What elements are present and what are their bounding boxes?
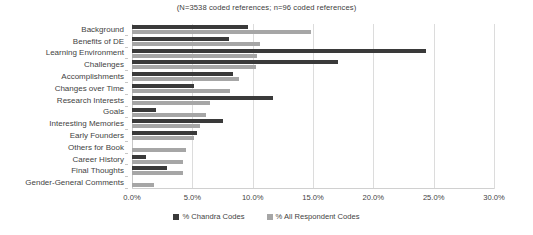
bar-chandra xyxy=(132,131,197,135)
bar-group xyxy=(132,71,494,83)
legend-swatch-icon xyxy=(267,214,273,220)
bar-all-respondent xyxy=(132,101,210,105)
bar-all-respondent xyxy=(132,124,200,128)
bar-group xyxy=(132,48,494,60)
bar-all-respondent xyxy=(132,183,154,187)
legend-swatch-icon xyxy=(173,214,179,220)
x-axis-tick-label: 25.0% xyxy=(423,193,445,202)
bar-all-respondent xyxy=(132,113,206,117)
bar-all-respondent xyxy=(132,42,260,46)
y-axis-category-labels: BackgroundBenefits of DELearning Environ… xyxy=(0,24,128,189)
legend-label: % All Respondent Codes xyxy=(276,212,360,221)
y-axis-tick xyxy=(125,94,128,95)
y-axis-label: Background xyxy=(81,25,124,34)
y-axis-tick xyxy=(125,70,128,71)
y-axis-tick xyxy=(125,117,128,118)
chart-legend: % Chandra Codes% All Respondent Codes xyxy=(0,212,533,221)
bar-all-respondent xyxy=(132,65,256,69)
bar-chandra xyxy=(132,108,156,112)
y-axis-label: Changes over Time xyxy=(55,84,124,93)
bar-group xyxy=(132,95,494,107)
bar-chandra xyxy=(132,25,248,29)
x-axis-tick-label: 10.0% xyxy=(242,193,264,202)
y-axis-label: Gender-General Comments xyxy=(25,178,124,187)
bar-group xyxy=(132,165,494,177)
y-axis-tick xyxy=(125,35,128,36)
y-axis-label: Research Interests xyxy=(57,96,124,105)
y-axis-label: Final Thoughts xyxy=(71,166,124,175)
plot-area xyxy=(132,24,494,189)
bar-all-respondent xyxy=(132,30,311,34)
y-axis-tick xyxy=(125,106,128,107)
bar-all-respondent xyxy=(132,160,183,164)
y-axis-label: Learning Environment xyxy=(46,48,124,57)
bar-chandra xyxy=(132,60,338,64)
bar-all-respondent xyxy=(132,54,257,58)
bar-all-respondent xyxy=(132,77,239,81)
y-axis-tick xyxy=(125,129,128,130)
y-axis-label: Early Founders xyxy=(70,131,124,140)
y-axis-tick xyxy=(125,82,128,83)
bar-chandra xyxy=(132,119,223,123)
x-axis-tick-label: 20.0% xyxy=(363,193,385,202)
y-axis-label: Goals xyxy=(103,107,124,116)
bar-rows xyxy=(132,24,494,189)
y-axis-tick xyxy=(125,164,128,165)
bar-chandra xyxy=(132,155,146,159)
x-axis-tick-labels: 0.0%5.0%10.0%15.0%20.0%25.0%30.0% xyxy=(0,193,533,207)
bar-chandra xyxy=(132,166,167,170)
bar-chart: (N=3538 coded references; n=96 coded ref… xyxy=(0,0,533,235)
bar-all-respondent xyxy=(132,171,183,175)
bar-group xyxy=(132,83,494,95)
bar-group xyxy=(132,118,494,130)
y-axis-tick xyxy=(125,141,128,142)
bar-group xyxy=(132,130,494,142)
y-axis-tick xyxy=(125,58,128,59)
y-axis-tick xyxy=(125,153,128,154)
bar-chandra xyxy=(132,84,194,88)
bar-all-respondent xyxy=(132,136,194,140)
y-axis-tick xyxy=(125,188,128,189)
x-axis-line xyxy=(132,188,494,189)
chart-title: (N=3538 coded references; n=96 coded ref… xyxy=(0,3,533,12)
y-axis-tick xyxy=(125,176,128,177)
y-axis-tick xyxy=(125,47,128,48)
bar-group xyxy=(132,24,494,36)
y-axis-label: Challenges xyxy=(84,60,124,69)
bar-group xyxy=(132,36,494,48)
x-axis-tick-label: 15.0% xyxy=(302,193,324,202)
bar-chandra xyxy=(132,72,233,76)
bar-all-respondent xyxy=(132,89,230,93)
bar-chandra xyxy=(132,49,426,53)
bar-group xyxy=(132,154,494,166)
bar-group xyxy=(132,107,494,119)
x-axis-tick-label: 5.0% xyxy=(184,193,201,202)
legend-item-chandra[interactable]: % Chandra Codes xyxy=(173,212,244,221)
bar-group xyxy=(132,142,494,154)
x-axis-tick-label: 0.0% xyxy=(123,193,140,202)
y-axis-label: Interesting Memories xyxy=(49,119,124,128)
legend-item-all-respondent[interactable]: % All Respondent Codes xyxy=(267,212,360,221)
bar-chandra xyxy=(132,37,229,41)
y-axis-label: Accomplishments xyxy=(61,72,124,81)
gridline-30.0pct xyxy=(494,24,495,189)
bar-chandra xyxy=(132,96,273,100)
legend-label: % Chandra Codes xyxy=(182,212,244,221)
bar-all-respondent xyxy=(132,148,186,152)
y-axis-label: Others for Book xyxy=(68,143,124,152)
bar-group xyxy=(132,59,494,71)
y-axis-label: Benefits of DE xyxy=(73,37,124,46)
x-axis-tick-label: 30.0% xyxy=(483,193,505,202)
y-axis-label: Career History xyxy=(72,155,124,164)
